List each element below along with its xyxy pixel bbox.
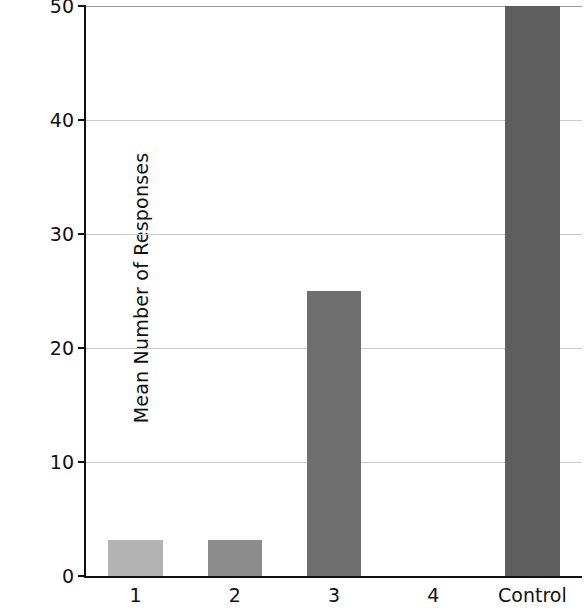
x-tick-label: 4 — [427, 584, 439, 606]
y-tick-mark — [78, 233, 86, 235]
x-tick-label: 2 — [229, 584, 241, 606]
x-axis-labels: 1234Control — [86, 576, 582, 614]
bar — [505, 6, 560, 576]
y-tick-mark — [78, 5, 86, 7]
plot-area: 01020304050 1234Control — [84, 6, 582, 578]
bar — [307, 291, 362, 576]
y-tick-label: 40 — [50, 109, 74, 131]
x-tick-label: 3 — [328, 584, 340, 606]
y-tick-mark — [78, 461, 86, 463]
x-tick-label: 1 — [130, 584, 142, 606]
bar-chart: Mean Number of Responses 01020304050 123… — [0, 0, 588, 614]
y-tick-mark — [78, 347, 86, 349]
bar-series — [86, 6, 582, 576]
y-tick-label: 20 — [50, 337, 74, 359]
y-tick-mark — [78, 119, 86, 121]
y-tick-label: 10 — [50, 451, 74, 473]
y-tick-mark — [78, 575, 86, 577]
y-tick-label: 0 — [62, 565, 74, 587]
y-tick-label: 50 — [50, 0, 74, 17]
x-tick-label: Control — [498, 584, 567, 606]
bar — [208, 540, 263, 576]
y-tick-label: 30 — [50, 223, 74, 245]
bar — [108, 540, 163, 576]
